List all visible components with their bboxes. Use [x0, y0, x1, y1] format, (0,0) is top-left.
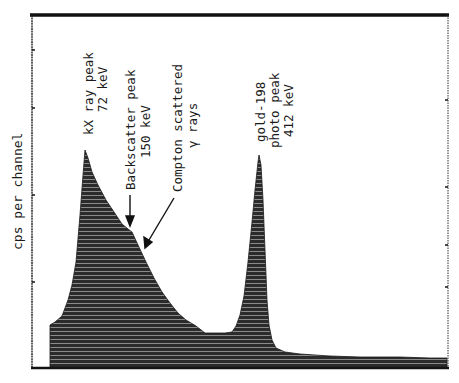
annotation-gold-198-photo-peak: gold-198 photo peak 412 keV: [253, 72, 296, 148]
backscatter-label-line2: 150 keV: [138, 105, 153, 158]
annotation-compton-scattered: Compton scattered γ rays: [170, 64, 200, 192]
gold-label-line2: photo peak: [267, 72, 282, 148]
compton-arrow: [144, 198, 174, 248]
compton-label-line2: γ rays: [185, 103, 200, 148]
compton-label-line1: Compton scattered: [170, 64, 185, 192]
kx-label-line2: 72 keV: [95, 66, 110, 112]
spectrum-chart: cps per channel kX ray peak 72 keV Backs…: [0, 0, 459, 383]
annotation-kx-ray-peak: kX ray peak 72 keV: [81, 52, 110, 135]
annotation-backscatter-peak: Backscatter peak 150 keV: [123, 69, 153, 190]
gold-label-line3: 412 keV: [281, 84, 296, 137]
kx-label-line1: kX ray peak: [81, 52, 96, 135]
spectrum-area: [50, 150, 447, 367]
backscatter-arrow: [126, 195, 134, 226]
y-axis-label: cps per channel: [10, 133, 25, 250]
gold-label-line1: gold-198: [253, 82, 268, 142]
backscatter-label-line1: Backscatter peak: [123, 69, 138, 190]
